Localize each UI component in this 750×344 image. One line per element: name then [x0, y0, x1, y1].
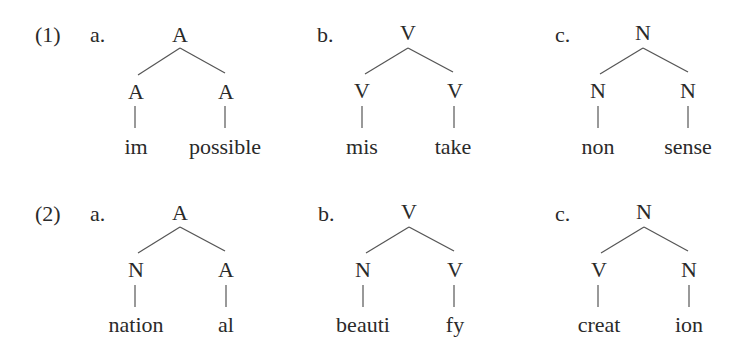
right-word: ion [675, 314, 703, 336]
tree-1a-branches [135, 48, 225, 128]
left-node: V [354, 80, 370, 102]
left-word: nation [109, 314, 164, 336]
tree-1b-branches [362, 48, 454, 128]
left-word: mis [346, 136, 378, 158]
example-number: (2) [35, 203, 61, 225]
tree-letter: a. [90, 24, 105, 46]
tree-2a-branches [135, 227, 226, 307]
left-node: A [128, 81, 144, 103]
root-node: N [635, 22, 651, 44]
tree-letter: c. [555, 24, 570, 46]
tree-letter: b. [318, 203, 335, 225]
left-word: creat [578, 314, 621, 336]
tree-2c-branches [598, 227, 689, 307]
left-word: beauti [336, 314, 390, 336]
root-node: A [172, 202, 188, 224]
right-word: sense [664, 136, 712, 158]
right-word: take [435, 136, 472, 158]
left-word: non [582, 136, 615, 158]
tree-2b-branches [363, 227, 454, 307]
tree-letter: a. [90, 203, 105, 225]
left-node: N [355, 259, 371, 281]
example-number: (1) [35, 24, 61, 46]
right-word: al [218, 314, 234, 336]
right-node: V [447, 259, 463, 281]
left-word: im [124, 136, 147, 158]
right-node: N [680, 80, 696, 102]
right-word: fy [446, 314, 464, 336]
root-node: A [172, 24, 188, 46]
root-node: V [401, 201, 417, 223]
tree-letter: c. [555, 203, 570, 225]
left-node: N [590, 80, 606, 102]
right-node: V [447, 80, 463, 102]
root-node: V [400, 22, 416, 44]
right-word: possible [189, 136, 261, 158]
left-node: V [591, 259, 607, 281]
root-node: N [636, 201, 652, 223]
tree-letter: b. [317, 24, 334, 46]
right-node: N [681, 259, 697, 281]
left-node: N [128, 259, 144, 281]
right-node: A [218, 259, 234, 281]
tree-branches [0, 0, 750, 344]
tree-1c-branches [598, 48, 688, 128]
right-node: A [218, 81, 234, 103]
